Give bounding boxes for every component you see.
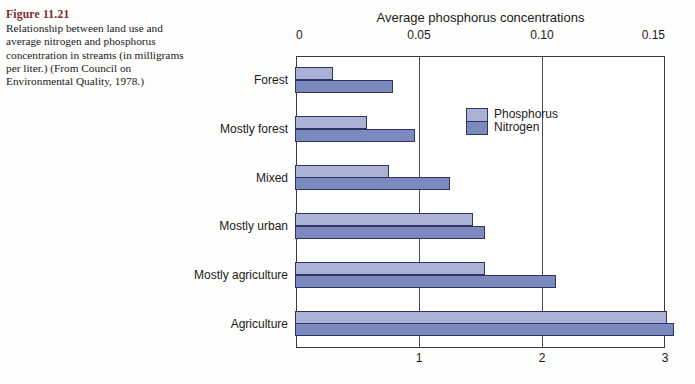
top-axis-ticks: 00.050.100.15 (296, 28, 665, 44)
bar-phosphorus (295, 213, 473, 226)
category-label-mixed: Mixed (0, 171, 288, 185)
legend-labels: Phosphorus Nitrogen (494, 108, 558, 134)
chart-title: Average phosphorus concentrations (296, 10, 665, 25)
bar-nitrogen (295, 129, 415, 142)
legend-label-nitrogen: Nitrogen (494, 121, 558, 134)
figure-number: Figure 11.21 (6, 8, 186, 21)
category-label-mostly-forest: Mostly forest (0, 122, 288, 136)
bar-nitrogen (295, 177, 450, 190)
chart-legend: Phosphorus Nitrogen (466, 108, 558, 135)
category-label-forest: Forest (0, 73, 288, 87)
top-tick-0_10: 0.10 (530, 28, 553, 42)
bottom-axis-ticks: 123 (296, 351, 665, 367)
gridline (419, 56, 420, 348)
top-tick-0_15: 0.15 (642, 28, 665, 42)
legend-swatch-nitrogen (467, 122, 487, 134)
plot-frame (296, 56, 665, 348)
bar-nitrogen (295, 323, 674, 336)
bar-phosphorus (295, 165, 389, 178)
bar-phosphorus (295, 311, 667, 324)
category-label-mostly-agriculture: Mostly agriculture (0, 268, 288, 282)
chart-area (296, 56, 665, 348)
bar-nitrogen (295, 80, 393, 93)
legend-swatch-phosphorus (467, 109, 487, 122)
bar-nitrogen (295, 275, 556, 288)
bottom-tick-3: 3 (662, 351, 669, 365)
top-tick-0_05: 0.05 (407, 28, 430, 42)
bar-nitrogen (295, 226, 485, 239)
bottom-tick-1: 1 (416, 351, 423, 365)
bar-phosphorus (295, 67, 333, 80)
bottom-tick-2: 2 (539, 351, 546, 365)
gridline (542, 56, 543, 348)
bar-phosphorus (295, 262, 485, 275)
legend-swatches (466, 108, 488, 135)
top-tick-0: 0 (296, 28, 303, 42)
bar-phosphorus (295, 116, 367, 129)
category-label-mostly-urban: Mostly urban (0, 219, 288, 233)
category-label-agriculture: Agriculture (0, 317, 288, 331)
